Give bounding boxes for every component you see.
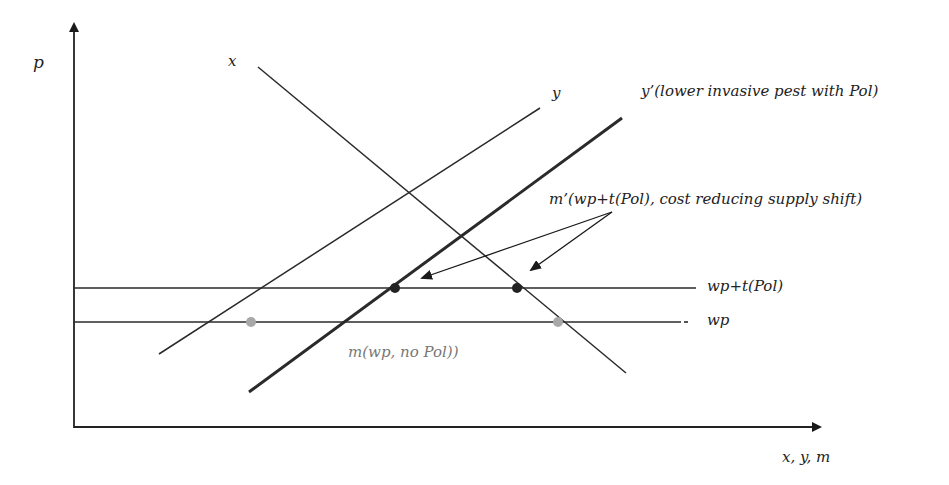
import-market-diagram [0, 0, 949, 485]
marker-demand-at-wp-plus-t [512, 283, 522, 293]
price-wp-label: wp [707, 313, 729, 328]
supply-curve-label: y [552, 86, 560, 101]
demand-curve-label: x [228, 54, 236, 69]
marker-demand-at-wp [553, 317, 563, 327]
annotation-arrow-right [531, 212, 612, 270]
x-axis-label: x, y, m [782, 450, 830, 465]
y-axis-label: p [33, 54, 44, 71]
shifted-supply-label: y’(lower invasive pest with Pol) [641, 84, 878, 99]
demand-curve-x [258, 67, 626, 373]
imports-no-policy-label: m(wp, no Pol)) [348, 345, 459, 360]
price-wp-plus-t-label: wp+t(Pol) [707, 279, 783, 294]
marker-supply-at-wp-plus-t [390, 283, 400, 293]
imports-with-policy-label: m’(wp+t(Pol), cost reducing supply shift… [549, 192, 862, 207]
marker-supply-at-wp [246, 317, 256, 327]
